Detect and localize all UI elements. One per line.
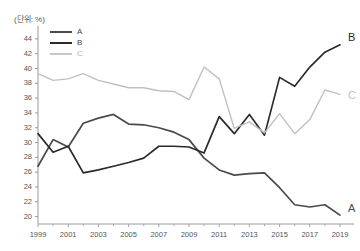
y-axis-label: 24 [14,182,32,191]
series-line-a [38,114,340,215]
y-axis-label: 20 [14,212,32,221]
y-axis-label: 22 [14,197,32,206]
y-axis-label: 40 [14,64,32,73]
x-axis-label: 2017 [296,230,324,239]
x-axis-label: 2019 [326,230,354,239]
line-chart: (단위: %) A B C 44424038363432302826242220… [0,0,360,251]
x-axis-label: 2007 [145,230,173,239]
y-axis-label: 38 [14,78,32,87]
end-label-b: B [348,31,355,43]
y-axis-label: 30 [14,138,32,147]
x-axis-label: 2009 [175,230,203,239]
y-axis-label: 44 [14,34,32,43]
x-axis-label: 2015 [266,230,294,239]
y-axis-label: 32 [14,123,32,132]
x-axis-label: 2005 [115,230,143,239]
x-axis-label: 2003 [84,230,112,239]
y-axis-label: 26 [14,167,32,176]
series-line-b [38,45,340,173]
x-axis-label: 1999 [24,230,52,239]
end-label-c: C [348,89,356,101]
y-axis-label: 28 [14,152,32,161]
y-axis-label: 42 [14,49,32,58]
y-axis-label: 34 [14,108,32,117]
x-axis-label: 2013 [235,230,263,239]
x-axis-label: 2011 [205,230,233,239]
y-axis-label: 36 [14,93,32,102]
plot-area [0,0,360,251]
x-axis-label: 2001 [54,230,82,239]
end-label-a: A [348,202,355,214]
